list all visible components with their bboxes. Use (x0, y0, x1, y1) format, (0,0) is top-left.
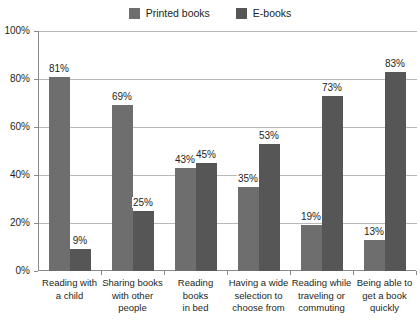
bar-group: 19%73% (290, 31, 353, 271)
bar-ebooks[interactable]: 45% (196, 163, 217, 271)
bar-ebooks[interactable]: 73% (322, 96, 343, 271)
y-axis: 0%20%40%60%80%100% (0, 31, 34, 271)
grouped-bar-chart: Printed books E-books 0%20%40%60%80%100%… (0, 0, 420, 328)
bar-value-label: 43% (174, 154, 196, 165)
category-label-line: in bed (165, 302, 226, 315)
y-axis-tick-label: 0% (16, 266, 30, 276)
x-axis-tick-mark (416, 271, 417, 275)
category-label-line: Reading with (39, 277, 100, 290)
y-axis-tick-label: 80% (10, 74, 30, 84)
legend-swatch-printed-icon (129, 8, 140, 19)
bar-value-label: 73% (321, 82, 343, 93)
bar-group: 13%83% (353, 31, 416, 271)
x-axis-tick-mark (164, 271, 165, 275)
bar-printed-books[interactable]: 69% (112, 105, 133, 271)
category-label-line: choose from (228, 302, 289, 315)
bar-group: 69%25% (101, 31, 164, 271)
x-axis-tick-mark (227, 271, 228, 275)
category-label-line: Reading books (165, 277, 226, 302)
bar-ebooks[interactable]: 9% (70, 249, 91, 271)
bar-value-label: 83% (384, 58, 406, 69)
category-label-line: a child (39, 290, 100, 303)
y-axis-tick-label: 40% (10, 170, 30, 180)
bar-printed-books[interactable]: 35% (238, 187, 259, 271)
bar-group: 81%9% (38, 31, 101, 271)
category-label-line: with other (102, 290, 163, 303)
category-label-line: Being able to (354, 277, 415, 290)
legend-label-ebooks: E-books (253, 8, 292, 19)
bar-group: 35%53% (227, 31, 290, 271)
category-label-line: Having a wide (228, 277, 289, 290)
category-label-line: Reading while (291, 277, 352, 290)
legend-item-printed-books: Printed books (129, 8, 210, 19)
x-axis-category-label: Reading booksin bed (164, 277, 227, 325)
category-label-line: get a book (354, 290, 415, 303)
y-axis-tick-label: 20% (10, 218, 30, 228)
bar-group: 43%45% (164, 31, 227, 271)
x-axis-categories: Reading witha childSharing bookswith oth… (38, 277, 416, 325)
bar-value-label: 9% (72, 235, 88, 246)
bar-printed-books[interactable]: 13% (364, 240, 385, 271)
bar-ebooks[interactable]: 25% (133, 211, 154, 271)
bar-value-label: 13% (363, 226, 385, 237)
bar-groups: 81%9%69%25%43%45%35%53%19%73%13%83% (38, 31, 416, 271)
bar-value-label: 53% (258, 130, 280, 141)
bar-printed-books[interactable]: 43% (175, 168, 196, 271)
chart-legend: Printed books E-books (0, 4, 420, 22)
bar-printed-books[interactable]: 19% (301, 225, 322, 271)
category-label-line: quickly (354, 302, 415, 315)
y-axis-tick-mark (34, 271, 38, 272)
bar-value-label: 69% (111, 91, 133, 102)
bar-value-label: 81% (48, 63, 70, 74)
category-label-line: Sharing books (102, 277, 163, 290)
category-label-line: commuting (291, 302, 352, 315)
x-axis-category-label: Reading whiletraveling orcommuting (290, 277, 353, 325)
legend-label-printed-books: Printed books (146, 8, 210, 19)
x-axis-category-label: Sharing bookswith otherpeople (101, 277, 164, 325)
y-axis-tick-label: 100% (4, 26, 30, 36)
x-axis-tick-mark (290, 271, 291, 275)
bar-value-label: 25% (132, 197, 154, 208)
bar-value-label: 19% (300, 211, 322, 222)
category-label-line: traveling or (291, 290, 352, 303)
category-label-line: people (102, 302, 163, 315)
bar-ebooks[interactable]: 53% (259, 144, 280, 271)
y-axis-tick-label: 60% (10, 122, 30, 132)
x-axis-category-label: Reading witha child (38, 277, 101, 325)
bar-ebooks[interactable]: 83% (385, 72, 406, 271)
bar-value-label: 45% (195, 149, 217, 160)
bar-printed-books[interactable]: 81% (49, 77, 70, 271)
category-label-line: selection to (228, 290, 289, 303)
legend-swatch-ebooks-icon (236, 8, 247, 19)
x-axis-tick-mark (353, 271, 354, 275)
legend-item-ebooks: E-books (236, 8, 292, 19)
x-axis-category-label: Having a wideselection tochoose from (227, 277, 290, 325)
x-axis-category-label: Being able toget a bookquickly (353, 277, 416, 325)
x-axis-tick-mark (101, 271, 102, 275)
bar-value-label: 35% (237, 173, 259, 184)
